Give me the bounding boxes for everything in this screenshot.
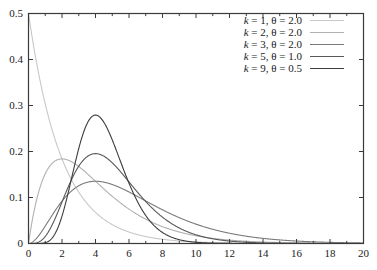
legend-label-4: k = 9, θ = 0.5 [228,62,302,74]
legend-item-3: k = 5, θ = 1.0 [228,50,344,62]
x-tick-label-3: 6 [114,247,144,259]
legend-label-3: k = 5, θ = 1.0 [228,50,302,62]
y-tick-label-1: 0.1 [0,191,23,203]
legend-params-0: = 1, θ = 2.0 [249,14,302,26]
y-tick-label-5: 0.5 [0,7,23,19]
legend-params-4: = 9, θ = 0.5 [249,62,302,74]
legend-label-1: k = 2, θ = 2.0 [228,26,302,38]
legend-line-swatch-3 [310,56,344,57]
y-tick-label-2: 0.2 [0,145,23,157]
legend-line-swatch-4 [310,68,344,69]
y-tick-label-3: 0.3 [0,99,23,111]
legend-line-swatch-0 [310,20,344,21]
legend-params-1: = 2, θ = 2.0 [249,26,302,38]
y-tick-label-4: 0.4 [0,53,23,65]
legend-label-2: k = 3, θ = 2.0 [228,38,302,50]
legend-line-swatch-1 [310,32,344,33]
plot-legend: k = 1, θ = 2.0k = 2, θ = 2.0k = 3, θ = 2… [228,14,344,74]
legend-params-3: = 5, θ = 1.0 [249,50,302,62]
x-tick-label-5: 10 [181,247,211,259]
legend-item-2: k = 3, θ = 2.0 [228,38,344,50]
x-tick-label-1: 2 [47,247,77,259]
x-tick-label-7: 14 [248,247,278,259]
x-tick-label-10: 20 [349,247,377,259]
x-tick-label-9: 18 [315,247,345,259]
x-tick-label-8: 16 [282,247,312,259]
legend-item-4: k = 9, θ = 0.5 [228,62,344,74]
legend-item-0: k = 1, θ = 2.0 [228,14,344,26]
legend-line-swatch-2 [310,44,344,45]
legend-label-0: k = 1, θ = 2.0 [228,14,302,26]
x-tick-label-0: 0 [14,247,44,259]
x-tick-label-2: 4 [81,247,111,259]
legend-item-1: k = 2, θ = 2.0 [228,26,344,38]
x-tick-label-6: 12 [215,247,245,259]
x-tick-label-4: 8 [148,247,178,259]
legend-params-2: = 3, θ = 2.0 [249,38,302,50]
